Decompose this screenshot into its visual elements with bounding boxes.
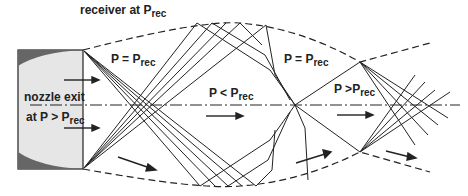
region-3-label: P = Prec: [284, 52, 328, 68]
supersonic-jet-diagram: receiver at Prec nozzle exit at P > Prec…: [0, 0, 468, 196]
nozzle-pressure-label: at P > Prec: [26, 110, 85, 126]
region-2-label: P < Prec: [209, 86, 253, 102]
nozzle-exit-label: nozzle exit: [24, 90, 85, 104]
receiver-label: receiver at Prec: [80, 3, 166, 19]
second-expansion: [360, 62, 450, 152]
region-4-label: P >Prec: [334, 82, 375, 98]
region-1-label: P = Prec: [111, 52, 155, 68]
